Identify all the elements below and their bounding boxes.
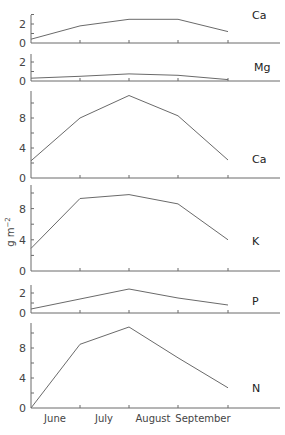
- panel-ca: 048Ca: [19, 91, 280, 185]
- month-august: August: [136, 413, 171, 424]
- y-tick-label: 2: [19, 287, 26, 300]
- panel-label: P: [252, 295, 259, 308]
- month-june: June: [43, 413, 66, 424]
- panel-p: 02P: [19, 285, 280, 320]
- y-tick-label: 0: [19, 172, 26, 185]
- series-line-ca: [31, 96, 228, 161]
- y-tick-label: 0: [19, 75, 26, 88]
- panel-label: N: [252, 382, 260, 395]
- series-line-p: [31, 289, 228, 309]
- series-line-ca: [31, 19, 228, 39]
- series-line-k: [31, 195, 228, 249]
- nutrient-chart: 02Ca02Mg048Ca048K02P048N June July Augus…: [0, 0, 285, 435]
- y-tick-label: 2: [19, 56, 26, 69]
- y-tick-label: 0: [19, 265, 26, 278]
- y-tick-label: 8: [19, 112, 26, 125]
- panel-label: Ca: [252, 153, 266, 166]
- y-axis-label: g m−2: [4, 217, 16, 247]
- panel-n: 048N: [19, 323, 280, 415]
- y-tick-label: 0: [19, 307, 26, 320]
- month-july: July: [94, 413, 113, 424]
- panel-label: Mg: [254, 61, 270, 74]
- panels: 02Ca02Mg048Ca048K02P048N: [19, 9, 280, 415]
- panel-label: Ca: [252, 9, 266, 22]
- y-tick-label: 4: [19, 372, 26, 385]
- y-tick-label: 2: [19, 18, 26, 31]
- panel-ca: 02Ca: [19, 9, 280, 50]
- panel-mg: 02Mg: [19, 54, 280, 88]
- month-september: September: [175, 413, 231, 424]
- y-tick-label: 8: [19, 342, 26, 355]
- y-tick-label: 0: [19, 37, 26, 50]
- y-tick-label: 4: [19, 234, 26, 247]
- panel-k: 048K: [19, 185, 280, 278]
- y-tick-label: 8: [19, 203, 26, 216]
- month-labels: June July August September: [43, 413, 231, 424]
- series-line-n: [31, 327, 228, 408]
- y-tick-label: 0: [19, 402, 26, 415]
- panel-label: K: [252, 235, 260, 248]
- y-tick-label: 4: [19, 142, 26, 155]
